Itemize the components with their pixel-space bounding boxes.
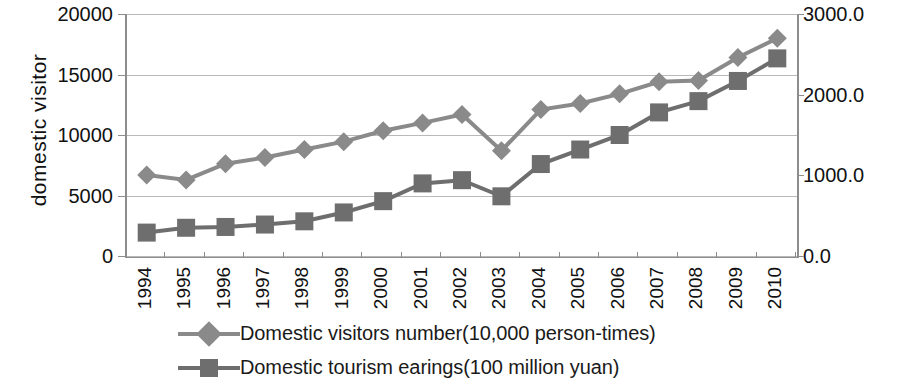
data-point-marker [295,212,313,230]
data-point-marker [216,154,235,173]
data-point-marker [138,224,156,242]
x-axis-tick: 2003 [484,258,514,318]
legend-item-earnings: Domestic tourism earings(100 million yua… [178,350,878,384]
legend-label-earnings: Domestic tourism earings(100 million yua… [240,356,619,379]
legend-label-visitors: Domestic visitors number(10,000 person-t… [240,322,656,345]
data-point-marker [137,165,156,184]
x-axis-tick-label: 2006 [607,267,629,309]
data-point-marker [571,94,590,113]
y-axis-left-tickmark [118,75,125,76]
x-axis-tickmark [795,252,796,258]
data-point-marker [611,126,629,144]
x-axis-tick: 2005 [563,258,593,318]
data-point-marker [413,113,432,132]
x-axis-tick: 1994 [130,258,160,318]
data-point-marker [768,49,786,67]
y-axis-left-ticks: 05000100001500020000 [0,0,113,270]
x-axis-tick-label: 1996 [213,267,235,309]
data-point-marker [650,72,669,91]
plot-area [125,14,799,258]
x-axis-tick-label: 1995 [173,267,195,309]
legend-item-visitors: Domestic visitors number(10,000 person-t… [178,316,878,350]
data-point-marker [650,103,668,121]
data-point-marker [374,121,393,140]
x-axis-tick: 2009 [721,258,751,318]
x-axis-tick: 1996 [209,258,239,318]
y-axis-right-tickmark [797,14,804,15]
x-axis-tickmark [283,252,284,258]
x-axis-tickmark [716,252,717,258]
data-point-marker [334,132,353,151]
y-axis-left-tick-label: 15000 [5,65,113,85]
data-point-marker [453,171,471,189]
data-point-marker [532,155,550,173]
legend-diamond-1 [196,321,221,346]
x-axis-tick: 1997 [248,258,278,318]
x-axis-tick-label: 2009 [725,267,747,309]
x-axis-tickmark [637,252,638,258]
data-point-marker [217,218,235,236]
data-point-marker [177,170,196,189]
x-axis-tick-label: 2007 [646,267,668,309]
y-axis-left-tickmark [118,256,125,257]
square-marker-icon [178,355,240,379]
data-point-marker [177,219,195,237]
data-point-marker [335,203,353,221]
data-point-marker [255,148,274,167]
x-axis-tick-label: 2003 [488,267,510,309]
x-axis-tickmark [204,252,205,258]
y-axis-left-tickmark [118,135,125,136]
y-axis-right-tickmark [797,175,804,176]
x-axis-tick-label: 2004 [528,267,550,309]
x-axis-tick: 2006 [603,258,633,318]
x-axis-tick: 2002 [445,258,475,318]
x-axis-tickmark [677,252,678,258]
x-axis-tick: 2000 [366,258,396,318]
x-axis-tick-label: 2008 [685,267,707,309]
data-point-marker [414,174,432,192]
data-point-marker [492,187,510,205]
x-axis-tickmark [125,252,126,258]
x-axis-tick-label: 1999 [331,267,353,309]
x-axis-tickmark [401,252,402,258]
data-point-marker [374,192,392,210]
x-axis-tickmark [322,252,323,258]
y-axis-left-tickmark [118,14,125,15]
y-axis-right-tick-label: 0.0 [803,246,902,266]
x-axis-tick-label: 2000 [370,267,392,309]
y-axis-left-tick-label: 20000 [5,4,113,24]
data-point-marker [295,140,314,159]
legend-square-2 [200,359,218,377]
series-layer [127,14,797,256]
x-axis-tick: 2001 [406,258,436,318]
x-axis-tick: 2007 [642,258,672,318]
x-axis-tick-label: 2010 [764,267,786,309]
x-axis-tick-label: 1998 [291,267,313,309]
data-point-marker [729,72,747,90]
data-point-marker [728,48,747,67]
y-axis-right-ticks: 0.01000.02000.03000.0 [803,0,902,270]
x-axis-tick: 2004 [524,258,554,318]
x-axis-tickmark [598,252,599,258]
diamond-marker-icon [178,321,240,345]
chart-container: domestic visitor 05000100001500020000 0.… [0,0,902,389]
x-axis-tickmark [519,252,520,258]
x-axis-ticks: 1994199519961997199819992000200120022003… [125,258,795,318]
data-point-marker [689,71,708,90]
y-axis-right-tick-label: 3000.0 [803,4,902,24]
y-axis-right-tick-label: 1000.0 [803,165,902,185]
y-axis-right-tickmark [797,256,804,257]
x-axis-tickmark [559,252,560,258]
y-axis-right-tickmark [797,95,804,96]
data-point-marker [768,29,787,48]
chart-legend: Domestic visitors number(10,000 person-t… [178,316,878,384]
x-axis-tick-label: 1994 [134,267,156,309]
x-axis-tick-label: 1997 [252,267,274,309]
y-axis-left-tick-label: 0 [5,246,113,266]
x-axis-tick: 2010 [760,258,790,318]
x-axis-tick-label: 2001 [410,267,432,309]
series-line [147,58,778,232]
x-axis-tickmark [756,252,757,258]
x-axis-tickmark [164,252,165,258]
y-axis-left-tickmark [118,196,125,197]
